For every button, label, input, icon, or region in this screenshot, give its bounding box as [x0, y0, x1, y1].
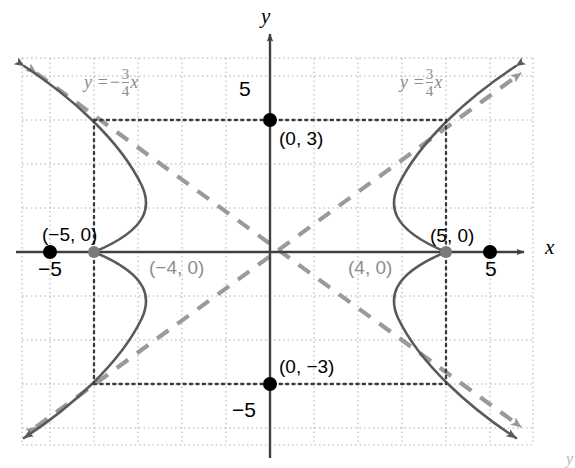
- asymptote-left-fraction: 34: [122, 67, 130, 98]
- x-tick-label-neg5: −5: [38, 258, 62, 279]
- asymptote-label-left: y =−34x: [84, 68, 138, 99]
- y-tick-label-5: 5: [239, 78, 251, 99]
- point-label-bottom-covertex: (0, −3): [279, 357, 334, 376]
- asymptote-left-numerator: 3: [122, 67, 130, 81]
- asymptote-right-numerator: 3: [426, 67, 434, 81]
- asymptote-right-denominator: 4: [426, 84, 434, 98]
- point-top-covertex-marker: [263, 113, 277, 127]
- asymptote-right-lead: y =: [400, 72, 425, 92]
- point-label-left-vertex: (−4, 0): [149, 258, 204, 277]
- vertex-right-marker: [440, 246, 452, 258]
- asymptote-left-lead: y =: [84, 72, 109, 92]
- point-label-right-focus: (5, 0): [430, 226, 474, 245]
- point-bottom-covertex-marker: [263, 377, 277, 391]
- x-tick-label-5: 5: [485, 258, 497, 279]
- point-label-right-vertex: (4, 0): [348, 258, 392, 277]
- y-tick-label-neg5: −5: [232, 399, 256, 420]
- asymptote-left-variable: x: [130, 72, 138, 92]
- y-axis-label: y: [261, 6, 270, 27]
- asymptote-right-fraction: 34: [426, 67, 434, 98]
- x-axis-label: x: [545, 237, 554, 258]
- asymptote-right-variable: x: [434, 72, 442, 92]
- point-label-top-covertex: (0, 3): [279, 129, 323, 148]
- vertex-left-marker: [88, 246, 100, 258]
- asymptote-left-sign: −: [109, 72, 121, 92]
- asymptote-label-right: y =34x: [400, 68, 442, 99]
- corner-artifact-glyph: y: [566, 450, 573, 468]
- asymptote-left-denominator: 4: [122, 84, 130, 98]
- point-label-left-focus: (−5, 0): [42, 225, 97, 244]
